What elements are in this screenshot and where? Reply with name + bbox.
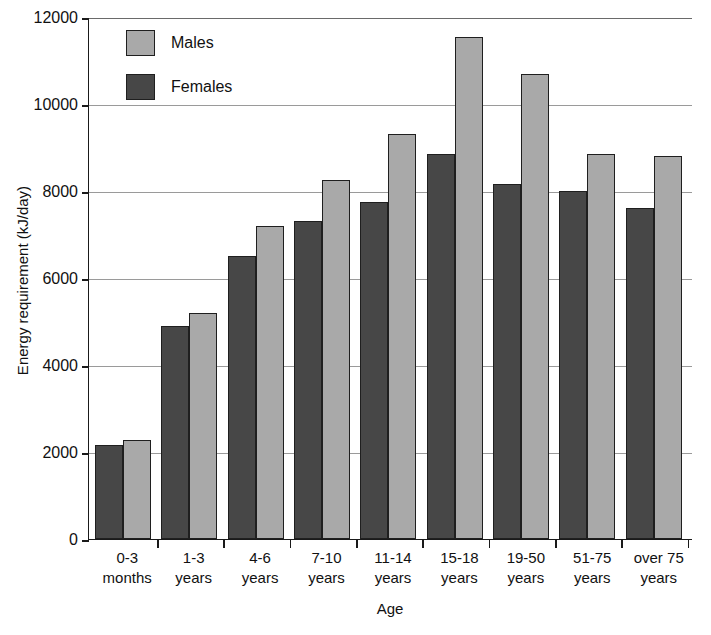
x-axis-title: Age [88,600,692,617]
x-label-line2: years [559,568,625,588]
bar-males-5[interactable] [455,37,483,539]
x-label-line1: 15-18 [426,548,492,568]
bar-males-6[interactable] [521,74,549,539]
x-tick-mark [157,539,159,548]
y-tick-mark [82,18,89,20]
bar-group [493,18,559,539]
x-label-line2: months [94,568,160,588]
x-tick-mark [422,539,424,548]
x-axis-label-5: 15-18years [426,548,492,588]
bar-males-2[interactable] [256,226,284,539]
x-axis-label-0: 0-3months [94,548,160,588]
x-label-line2: years [160,568,226,588]
bar-males-7[interactable] [587,154,615,539]
y-tick-label: 0 [69,531,78,549]
x-axis-label-2: 4-6years [227,548,293,588]
x-axis-label-6: 19-50years [493,548,559,588]
y-tick-label: 4000 [42,357,78,375]
bar-males-0[interactable] [123,440,151,539]
bar-males-4[interactable] [388,134,416,539]
y-tick-mark [82,279,89,281]
x-tick-mark [555,539,557,548]
bar-group [427,18,493,539]
y-tick-mark [82,366,89,368]
bar-females-7[interactable] [559,191,587,539]
bar-males-8[interactable] [654,156,682,539]
y-tick-mark [82,105,89,107]
x-tick-mark [621,539,623,548]
y-tick-label: 8000 [42,183,78,201]
bar-group [360,18,426,539]
y-tick-mark [82,192,89,194]
bar-females-2[interactable] [228,256,256,539]
x-axis-label-8: over 75years [626,548,692,588]
bar-females-3[interactable] [294,221,322,539]
x-label-line2: years [293,568,359,588]
x-label-line1: 0-3 [94,548,160,568]
x-label-line2: years [426,568,492,588]
chart-legend: MalesFemales [126,30,232,118]
bar-group [626,18,692,539]
x-label-line1: 51-75 [559,548,625,568]
bar-group [559,18,625,539]
bar-males-3[interactable] [322,180,350,539]
bar-females-0[interactable] [95,445,123,539]
y-tick-label: 10000 [34,96,79,114]
bar-males-1[interactable] [189,313,217,539]
x-axis-label-3: 7-10years [293,548,359,588]
legend-label: Females [171,78,232,96]
legend-item-males[interactable]: Males [126,30,232,56]
x-label-line2: years [227,568,293,588]
x-tick-mark [489,539,491,548]
y-tick-label: 12000 [34,9,79,27]
bar-females-8[interactable] [626,208,654,539]
x-label-line2: years [493,568,559,588]
bar-group [294,18,360,539]
legend-swatch-icon [126,30,155,56]
y-tick-label: 6000 [42,270,78,288]
x-tick-mark [223,539,225,548]
legend-label: Males [171,34,214,52]
y-tick-mark [82,540,89,542]
bar-group [228,18,294,539]
bar-females-5[interactable] [427,154,455,539]
x-label-line2: years [360,568,426,588]
x-label-line1: over 75 [626,548,692,568]
x-label-line2: years [626,568,692,588]
legend-swatch-icon [126,74,155,100]
bar-females-6[interactable] [493,184,521,539]
x-axis-label-1: 1-3years [160,548,226,588]
bar-chart: Energy requirement (kJ/day) 020004000600… [0,0,711,635]
x-axis-label-4: 11-14years [360,548,426,588]
bar-females-4[interactable] [360,202,388,539]
x-tick-mark [356,539,358,548]
x-label-line1: 4-6 [227,548,293,568]
x-label-line1: 19-50 [493,548,559,568]
x-label-line1: 7-10 [293,548,359,568]
x-tick-mark [688,539,690,548]
x-label-line1: 1-3 [160,548,226,568]
y-tick-label: 2000 [42,444,78,462]
x-label-line1: 11-14 [360,548,426,568]
y-tick-mark [82,453,89,455]
y-axis-title: Energy requirement (kJ/day) [14,21,31,541]
legend-item-females[interactable]: Females [126,74,232,100]
x-tick-mark [290,539,292,548]
x-axis-labels: 0-3months1-3years4-6years7-10years11-14y… [88,548,692,588]
bar-females-1[interactable] [161,326,189,539]
x-axis-label-7: 51-75years [559,548,625,588]
